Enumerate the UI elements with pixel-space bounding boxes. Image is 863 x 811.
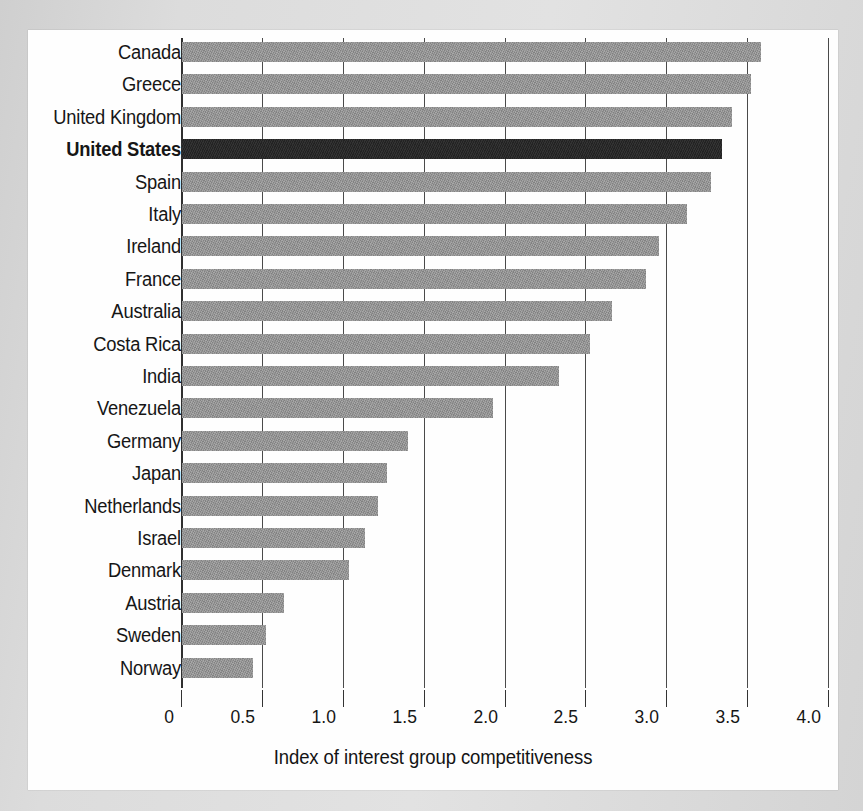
category-label-israel: Israel xyxy=(37,528,181,548)
x-tick-mark xyxy=(585,690,586,707)
bar-denmark xyxy=(182,560,349,580)
bar-greece xyxy=(182,74,751,94)
category-label-netherlands: Netherlands xyxy=(37,496,181,516)
y-axis-line xyxy=(181,38,183,688)
x-tick-mark xyxy=(343,690,344,707)
x-axis-title: Index of interest group competitiveness xyxy=(48,746,818,769)
x-tick-label: 4.0 xyxy=(795,706,821,728)
x-tick-mark xyxy=(424,690,425,707)
x-tick-mark xyxy=(262,690,263,707)
bar-united-states xyxy=(182,139,722,159)
bar-ireland xyxy=(182,236,659,256)
x-tick-label: 0.5 xyxy=(229,706,255,728)
category-label-ireland: Ireland xyxy=(37,236,181,256)
category-label-spain: Spain xyxy=(37,172,181,192)
x-axis: 00.51.01.52.02.53.03.54.0 xyxy=(181,690,828,736)
x-tick-label: 3.5 xyxy=(714,706,740,728)
bar-costa-rica xyxy=(182,334,590,354)
bar-venezuela xyxy=(182,398,493,418)
category-label-costa-rica: Costa Rica xyxy=(37,334,181,354)
x-tick-mark xyxy=(747,690,748,707)
category-label-india: India xyxy=(37,366,181,386)
gridline xyxy=(828,38,829,688)
chart-plate: CanadaGreeceUnited KingdomUnited StatesS… xyxy=(28,30,838,790)
x-tick-label: 2.5 xyxy=(552,706,578,728)
category-label-france: France xyxy=(37,269,181,289)
x-tick-mark xyxy=(666,690,667,707)
x-tick-label: 0 xyxy=(148,706,174,728)
bar-canada xyxy=(182,42,761,62)
category-label-australia: Australia xyxy=(37,301,181,321)
category-label-greece: Greece xyxy=(37,74,181,94)
category-axis-labels: CanadaGreeceUnited KingdomUnited StatesS… xyxy=(28,38,181,688)
gridline xyxy=(424,38,425,688)
category-label-italy: Italy xyxy=(37,204,181,224)
figure-container: CanadaGreeceUnited KingdomUnited StatesS… xyxy=(0,0,863,811)
gridline xyxy=(585,38,586,688)
x-tick-label: 1.5 xyxy=(391,706,417,728)
x-tick-label: 1.0 xyxy=(310,706,336,728)
bar-austria xyxy=(182,593,284,613)
category-label-united-states: United States xyxy=(37,139,181,159)
bar-australia xyxy=(182,301,612,321)
bar-spain xyxy=(182,172,711,192)
bar-norway xyxy=(182,658,253,678)
bar-netherlands xyxy=(182,496,378,516)
gridline xyxy=(747,38,748,688)
x-tick-label: 2.0 xyxy=(472,706,498,728)
x-tick-mark xyxy=(181,690,182,707)
category-label-venezuela: Venezuela xyxy=(37,398,181,418)
gridline xyxy=(262,38,263,688)
bar-sweden xyxy=(182,625,266,645)
category-label-japan: Japan xyxy=(37,463,181,483)
bar-japan xyxy=(182,463,387,483)
bar-india xyxy=(182,366,559,386)
category-label-canada: Canada xyxy=(37,42,181,62)
bar-france xyxy=(182,269,646,289)
category-label-germany: Germany xyxy=(37,431,181,451)
bar-israel xyxy=(182,528,365,548)
bar-italy xyxy=(182,204,687,224)
horizontal-bar-chart: CanadaGreeceUnited KingdomUnited StatesS… xyxy=(28,30,838,790)
category-label-united-kingdom: United Kingdom xyxy=(37,107,181,127)
gridline xyxy=(505,38,506,688)
category-label-sweden: Sweden xyxy=(37,625,181,645)
x-tick-mark xyxy=(505,690,506,707)
gridline xyxy=(666,38,667,688)
plot-area xyxy=(181,38,828,688)
bar-germany xyxy=(182,431,408,451)
gridline xyxy=(343,38,344,688)
bar-united-kingdom xyxy=(182,107,732,127)
x-tick-label: 3.0 xyxy=(633,706,659,728)
category-label-norway: Norway xyxy=(37,658,181,678)
category-label-denmark: Denmark xyxy=(37,560,181,580)
category-label-austria: Austria xyxy=(37,593,181,613)
x-tick-mark xyxy=(828,690,829,707)
